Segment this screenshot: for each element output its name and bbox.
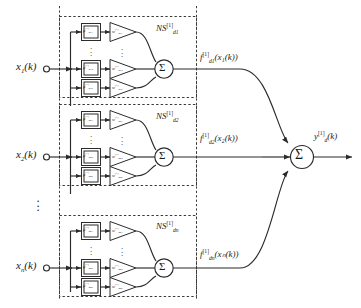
mu-label-r2-n2: μ[1]d22 [83, 152, 93, 159]
w-label-r2-n1: w[1]d21 [112, 116, 123, 123]
input-terminals [44, 66, 50, 271]
w-label-rn-n1: w[1]dn1 [112, 227, 123, 234]
diagram-vector-layer [0, 0, 361, 308]
mu-label-rn-n2: μ[1]dn2 [83, 263, 93, 270]
mu-label-r1-n2: μ[1]d12 [83, 64, 93, 71]
row-n-mu-ellipsis: ... [85, 244, 97, 255]
row-2-w-ellipsis: ... [116, 134, 128, 145]
w-label-r2-n2: w[1]d22 [112, 153, 123, 160]
w-label-r1-nk: w[1]d1k [112, 84, 123, 91]
row-n-wiring [50, 231, 240, 292]
w-label-rn-nk: w[1]dnk [112, 283, 123, 290]
w-label-r1-n2: w[1]d12 [112, 65, 123, 72]
mu-label-r1-n1: μ[1]d11 [83, 27, 93, 34]
final-sum-node: Σ [295, 148, 303, 162]
row-output-label-n: f[1]dn(xₙ(k)) [200, 249, 239, 261]
row-1-wiring [50, 32, 240, 106]
outer-dashed-rails [60, 6, 197, 300]
w-label-r1-n1: w[1]d11 [112, 28, 122, 35]
diagram-canvas: x1(k) x2(k) xn(k) ... μ[1]d11 w[1]d11 μ[… [0, 0, 361, 308]
aggregation-wiring [240, 69, 352, 268]
row-1-w-ellipsis: ... [116, 46, 128, 57]
input-vertical-ellipsis: ... [31, 196, 45, 210]
input-label-row-n: xn(k) [16, 260, 37, 274]
final-output-label: y[1]d(k) [314, 131, 337, 143]
sum-node-row-2: Σ [159, 150, 165, 161]
row-1-mu-ellipsis: ... [85, 45, 97, 56]
mu-label-r2-nk: μ[1]d2k [83, 171, 93, 178]
ns-block-label-row-2: NS[1]d2 [156, 111, 179, 123]
mu-label-r2-n1: μ[1]d21 [83, 115, 93, 122]
input-label-row-2: x2(k) [16, 149, 37, 163]
input-label-row-1: x1(k) [16, 61, 37, 75]
row-n-w-ellipsis: ... [116, 245, 128, 256]
mu-label-r1-nk: μ[1]d1k [83, 83, 93, 90]
w-label-r2-nk: w[1]d2k [112, 172, 123, 179]
sum-node-row-n: Σ [159, 261, 165, 272]
w-label-rn-n2: w[1]dn2 [112, 264, 123, 271]
row-output-label-1: f[1]d1(x₁(k)) [200, 52, 238, 64]
ns-block-label-row-n: NS[1]dn [156, 221, 179, 233]
mu-label-rn-n1: μ[1]dn1 [83, 226, 93, 233]
mu-label-rn-nk: μ[1]dnk [83, 282, 93, 289]
row-output-label-2: f[1]d2(x₂(k)) [200, 133, 238, 145]
sum-node-row-1: Σ [159, 62, 165, 73]
ns-block-label-row-1: NS[1]d1 [156, 23, 179, 35]
row-2-mu-ellipsis: ... [85, 133, 97, 144]
